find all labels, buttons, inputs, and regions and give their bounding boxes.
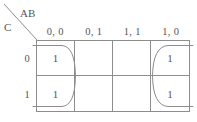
kmap-cell: 1 xyxy=(151,41,189,76)
column-variable-label: AB xyxy=(20,8,35,19)
row-variable-label: C xyxy=(4,22,11,33)
kmap-grid: 1 1 1 1 xyxy=(36,40,190,112)
kmap-cell xyxy=(75,76,113,111)
column-header-row: 0, 0 0, 1 1, 1 1, 0 xyxy=(36,25,190,38)
row-header: 0 xyxy=(20,40,34,76)
row-header: 1 xyxy=(20,76,34,112)
row-header-column: 0 1 xyxy=(20,40,34,112)
column-header: 0, 1 xyxy=(75,25,114,38)
kmap-cell xyxy=(75,41,113,76)
column-header: 1, 1 xyxy=(113,25,152,38)
kmap-cell: 1 xyxy=(37,76,75,111)
kmap-cell xyxy=(113,41,151,76)
kmap-cell: 1 xyxy=(151,76,189,111)
kmap-cell xyxy=(113,76,151,111)
column-header: 1, 0 xyxy=(152,25,191,38)
column-header: 0, 0 xyxy=(36,25,75,38)
kmap-cell: 1 xyxy=(37,41,75,76)
karnaugh-map-diagram: AB C 0, 0 0, 1 1, 1 1, 0 0 1 1 1 1 1 xyxy=(0,0,197,122)
